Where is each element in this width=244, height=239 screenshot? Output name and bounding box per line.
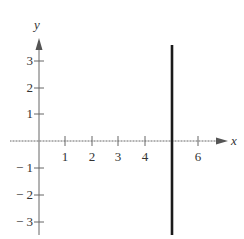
y-tick-label: 1 (27, 106, 34, 121)
x-axis-arrow-icon (216, 138, 228, 145)
coordinate-plane: x y 1 2 3 4 6 3 2 1 − 1 − 2 − 3 (0, 0, 244, 239)
x-tick-label: 4 (142, 149, 149, 164)
x-tick-labels: 1 2 3 4 6 (62, 149, 202, 164)
y-tick-label: 3 (27, 53, 34, 68)
x-axis-label: x (230, 133, 237, 148)
x-tick-label: 2 (89, 149, 96, 164)
x-tick-label: 3 (115, 149, 122, 164)
y-tick-label: − 1 (16, 160, 33, 175)
x-tick-label: 6 (195, 149, 202, 164)
y-axis-label: y (32, 17, 40, 32)
y-tick-label: − 3 (16, 214, 33, 229)
y-tick-label: − 2 (16, 187, 33, 202)
x-tick-label: 1 (62, 149, 69, 164)
y-tick-label: 2 (27, 80, 34, 95)
y-axis-arrow-icon (36, 38, 43, 50)
